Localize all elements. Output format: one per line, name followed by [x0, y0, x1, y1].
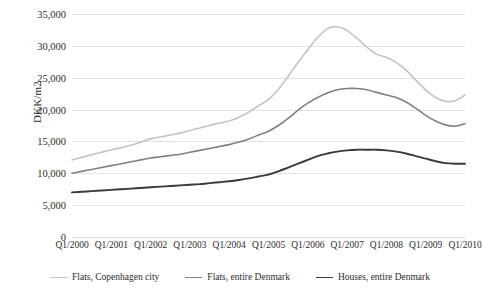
gridline	[72, 237, 465, 238]
x-axis-tick-label: Q1/2007	[330, 240, 363, 250]
legend-label: Flats, entire Denmark	[207, 272, 290, 282]
x-axis-tick-label: Q1/2003	[173, 240, 206, 250]
legend-label: Flats, Copenhagen city	[72, 272, 159, 282]
series-line	[72, 27, 465, 160]
x-axis-tick-label: Q1/2000	[55, 240, 88, 250]
series-line	[72, 88, 465, 173]
x-axis-tick-label: Q1/2002	[134, 240, 167, 250]
x-axis-tick-label: Q1/2005	[252, 240, 285, 250]
legend-line-icon	[185, 277, 202, 278]
y-axis-tick-label: 5,000	[42, 200, 66, 211]
y-axis-tick-label: 20,000	[37, 104, 66, 115]
plot-area: 05,00010,00015,00020,00025,00030,00035,0…	[72, 14, 465, 237]
legend-item[interactable]: Flats, Copenhagen city	[50, 272, 159, 282]
x-axis-ticks: Q1/2000Q1/2001Q1/2002Q1/2003Q1/2004Q1/20…	[72, 240, 465, 256]
x-axis-tick-label: Q1/2001	[95, 240, 128, 250]
chart-legend: Flats, Copenhagen cityFlats, entire Denm…	[0, 272, 480, 282]
legend-line-icon	[50, 277, 67, 278]
legend-item[interactable]: Houses, entire Denmark	[316, 272, 430, 282]
y-axis-tick-label: 35,000	[37, 9, 66, 20]
legend-line-icon	[316, 277, 333, 278]
y-axis-tick-label: 10,000	[37, 168, 66, 179]
y-axis-tick-label: 25,000	[37, 72, 66, 83]
x-axis-tick-label: Q1/2010	[448, 240, 481, 250]
x-axis-tick-label: Q1/2004	[213, 240, 246, 250]
legend-item[interactable]: Flats, entire Denmark	[185, 272, 290, 282]
series-group	[72, 14, 465, 237]
series-line	[72, 150, 465, 193]
x-axis-tick-label: Q1/2008	[370, 240, 403, 250]
y-axis-tick-label: 15,000	[37, 136, 66, 147]
x-axis-tick-label: Q1/2009	[409, 240, 442, 250]
x-axis-tick-label: Q1/2006	[291, 240, 324, 250]
y-axis-tick-label: 30,000	[37, 40, 66, 51]
legend-label: Houses, entire Denmark	[338, 272, 430, 282]
